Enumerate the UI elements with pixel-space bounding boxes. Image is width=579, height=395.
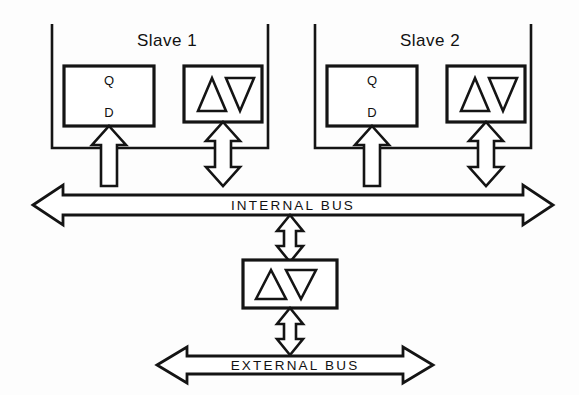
slave-2-group: Slave 2 Q D [315, 24, 531, 186]
external-bus-group: EXTERNAL BUS [157, 347, 433, 383]
slave-1-transceiver-link-arrow [206, 122, 240, 186]
slave-1-transceiver-box [184, 66, 262, 122]
slave-2-transceiver-box [447, 66, 525, 122]
internal-bus-label: INTERNAL BUS [231, 198, 355, 213]
slave-2-register-pin-d: D [367, 105, 376, 120]
slave-2-transceiver-link-arrow [469, 122, 503, 186]
main-transceiver-group [243, 215, 337, 355]
main-transceiver-lower-link-arrow [277, 308, 303, 355]
slave-1-register-pin-d: D [104, 105, 113, 120]
main-transceiver-box [243, 260, 337, 308]
main-transceiver-upper-link-arrow [277, 215, 303, 262]
slave-2-register-pin-q: Q [367, 73, 377, 88]
slave-1-label: Slave 1 [137, 31, 197, 50]
block-diagram: Slave 1 Q D Slave 2 Q D [0, 0, 579, 395]
slave-1-register-pin-q: Q [104, 73, 114, 88]
slave-1-register-link-arrow [92, 126, 126, 186]
diagram-canvas: Slave 1 Q D Slave 2 Q D [0, 0, 579, 395]
slave-2-label: Slave 2 [400, 31, 460, 50]
slave-1-group: Slave 1 Q D [52, 24, 268, 186]
external-bus-label: EXTERNAL BUS [231, 358, 360, 373]
slave-2-register-link-arrow [355, 126, 389, 186]
